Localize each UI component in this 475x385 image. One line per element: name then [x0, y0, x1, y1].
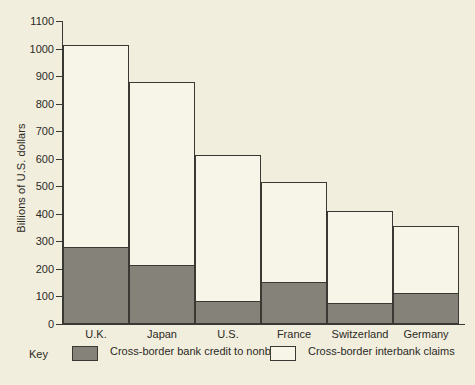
- legend-swatch-nonbanks: [72, 346, 98, 361]
- y-axis-tick: [56, 159, 62, 160]
- bar-chart-figure: Billions of U.S. dollars 110010009008007…: [0, 0, 475, 385]
- x-axis-label: Japan: [147, 328, 177, 340]
- y-axis-tick: [56, 269, 62, 270]
- bar-switzerland: [327, 21, 393, 324]
- bar-segment-interbank: [195, 155, 261, 302]
- bar-segment-nonbanks: [327, 303, 393, 324]
- x-axis-label: Germany: [403, 328, 448, 340]
- y-axis-tick: [56, 241, 62, 242]
- legend-label-interbank: Cross-border interbank claims: [308, 345, 455, 358]
- y-axis-tick-label: 700: [2, 126, 54, 137]
- y-axis-tick: [56, 214, 62, 215]
- legend-swatch-interbank: [270, 346, 296, 361]
- bar-uk: [63, 21, 129, 324]
- x-axis-label: U.S.: [217, 328, 238, 340]
- bar-segment-interbank: [261, 182, 327, 283]
- y-axis-tick: [56, 49, 62, 50]
- bar-segment-interbank: [327, 211, 393, 304]
- y-axis-tick-label: 100: [2, 291, 54, 302]
- y-axis-tick-label: 200: [2, 263, 54, 274]
- y-axis-tick: [56, 104, 62, 105]
- legend-label-nonbanks: Cross-border bank credit to nonbanks: [110, 345, 294, 358]
- bar-segment-interbank: [129, 82, 195, 266]
- y-axis-tick: [56, 21, 62, 22]
- legend-key-label: Key: [29, 348, 48, 360]
- y-axis-tick-label: 400: [2, 208, 54, 219]
- y-axis-tick-label: 0: [2, 319, 54, 330]
- y-axis-tick-label: 800: [2, 98, 54, 109]
- y-axis-tick-label: 500: [2, 181, 54, 192]
- bar-us: [195, 21, 261, 324]
- x-axis-line: [56, 324, 465, 325]
- y-axis-tick-label: 1000: [2, 43, 54, 54]
- bar-segment-nonbanks: [195, 301, 261, 324]
- y-axis-tick: [56, 324, 62, 325]
- bar-segment-nonbanks: [393, 293, 459, 324]
- bar-segment-nonbanks: [63, 247, 129, 324]
- y-axis-tick-label: 300: [2, 236, 54, 247]
- y-axis-tick-label: 600: [2, 153, 54, 164]
- bar-segment-interbank: [393, 226, 459, 294]
- y-axis-tick: [56, 131, 62, 132]
- bar-segment-nonbanks: [261, 282, 327, 324]
- y-axis-tick-label: 1100: [2, 16, 54, 27]
- x-axis-label: France: [277, 328, 311, 340]
- y-axis-tick: [56, 296, 62, 297]
- bar-segment-interbank: [63, 45, 129, 248]
- bar-france: [261, 21, 327, 324]
- plot-area: [63, 21, 459, 324]
- y-axis-tick: [56, 76, 62, 77]
- y-axis-tick-label: 900: [2, 71, 54, 82]
- y-axis-tick-labels: 110010009008007006005004003002001000: [0, 0, 54, 385]
- bar-germany: [393, 21, 459, 324]
- x-axis-label: U.K.: [85, 328, 106, 340]
- y-axis-tick: [56, 186, 62, 187]
- bar-japan: [129, 21, 195, 324]
- x-axis-label: Switzerland: [332, 328, 389, 340]
- bar-segment-nonbanks: [129, 265, 195, 324]
